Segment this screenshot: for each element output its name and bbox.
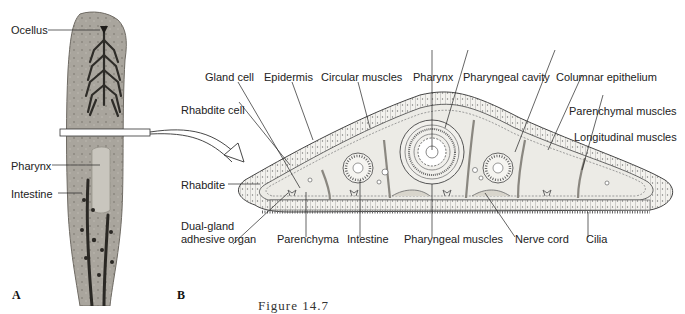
label-parenchyma: Parenchyma xyxy=(277,233,339,245)
intestine-section-left xyxy=(343,153,373,183)
label-dual-gland-line1: Dual-gland xyxy=(181,220,234,232)
label-epidermis: Epidermis xyxy=(264,71,313,83)
intestine-section-right xyxy=(483,153,513,183)
panel-letter-b: B xyxy=(177,288,185,303)
label-ocellus: Ocellus xyxy=(11,24,48,36)
label-circular-muscles: Circular muscles xyxy=(321,71,402,83)
label-longitudinal-muscles: Longitudinal muscles xyxy=(574,131,677,143)
arrow-to-cross-section xyxy=(150,130,244,162)
figure-caption: Figure 14.7 xyxy=(258,298,329,314)
label-rhabdite: Rhabdite xyxy=(181,179,225,191)
label-cilia: Cilia xyxy=(586,233,607,245)
label-pharynx-b: Pharynx xyxy=(413,71,453,83)
label-pharyngeal-cavity: Pharyngeal cavity xyxy=(463,71,550,83)
label-pharynx-a: Pharynx xyxy=(11,160,51,172)
label-gland-cell: Gland cell xyxy=(205,71,254,83)
panel-letter-a: A xyxy=(12,288,21,303)
label-intestine-b: Intestine xyxy=(347,233,389,245)
label-rhabdite-cell: Rhabdite cell xyxy=(181,104,245,116)
label-dual-gland-line2: adhesive organ xyxy=(181,233,256,245)
label-nerve-cord: Nerve cord xyxy=(515,233,569,245)
label-parenchymal-muscles: Parenchymal muscles xyxy=(569,105,677,117)
label-columnar-epithelium: Columnar epithelium xyxy=(556,71,657,83)
planarian-photo xyxy=(60,12,150,306)
label-pharyngeal-muscles: Pharyngeal muscles xyxy=(404,233,503,245)
label-intestine-a: Intestine xyxy=(11,188,53,200)
section-marker xyxy=(60,129,150,136)
